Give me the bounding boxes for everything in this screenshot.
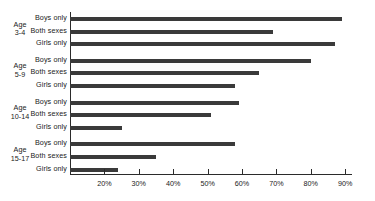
bar-category-label: Both sexes: [0, 68, 67, 76]
bar-category-label: Boys only: [0, 14, 67, 22]
x-axis-tick: [242, 169, 243, 175]
bar-category-label: Girls only: [0, 123, 67, 131]
bar: [70, 101, 239, 105]
bar: [70, 142, 235, 146]
bar-category-label: Boys only: [0, 56, 67, 64]
bar-row: Both sexes: [0, 27, 375, 37]
bar: [70, 71, 259, 75]
bar-row: Boys only: [0, 139, 375, 149]
bar: [70, 17, 342, 21]
bar-row: Girls only: [0, 165, 375, 175]
x-axis-tick: [208, 169, 209, 175]
bar: [70, 113, 211, 117]
bar-category-label: Both sexes: [0, 110, 67, 118]
bar-category-label: Girls only: [0, 39, 67, 47]
bar-category-label: Both sexes: [0, 27, 67, 35]
bar-chart: Age3-4Age5-9Age10-14Age15-17 Boys onlyBo…: [0, 0, 375, 201]
x-axis-tick-label: 60%: [227, 179, 257, 188]
bar: [70, 84, 235, 88]
bar: [70, 168, 118, 172]
x-axis-tick: [139, 169, 140, 175]
x-axis-tick: [173, 169, 174, 175]
bar-row: Girls only: [0, 123, 375, 133]
bar-row: Boys only: [0, 56, 375, 66]
bar-row: Boys only: [0, 14, 375, 24]
x-axis-tick-label: 70%: [261, 179, 291, 188]
x-axis-tick-label: 20%: [89, 179, 119, 188]
x-axis-tick: [345, 169, 346, 175]
x-axis-tick-label: 50%: [193, 179, 223, 188]
bar-row: Girls only: [0, 39, 375, 49]
bar-category-label: Boys only: [0, 98, 67, 106]
x-axis-tick: [311, 169, 312, 175]
x-axis-tick-label: 30%: [124, 179, 154, 188]
bar-row: Both sexes: [0, 110, 375, 120]
bar-category-label: Boys only: [0, 139, 67, 147]
bar: [70, 30, 273, 34]
x-axis-tick-label: 80%: [296, 179, 326, 188]
bar: [70, 59, 311, 63]
bar: [70, 42, 335, 46]
bar-category-label: Girls only: [0, 81, 67, 89]
bar-row: Boys only: [0, 98, 375, 108]
x-axis-tick-label: 90%: [330, 179, 360, 188]
bar: [70, 126, 122, 130]
bar-category-label: Girls only: [0, 165, 67, 173]
bar-row: Girls only: [0, 81, 375, 91]
bar-category-label: Both sexes: [0, 152, 67, 160]
x-axis-tick: [104, 169, 105, 175]
x-axis-tick-label: 40%: [158, 179, 188, 188]
bar: [70, 155, 156, 159]
bar-row: Both sexes: [0, 68, 375, 78]
bar-row: Both sexes: [0, 152, 375, 162]
x-axis-tick: [276, 169, 277, 175]
